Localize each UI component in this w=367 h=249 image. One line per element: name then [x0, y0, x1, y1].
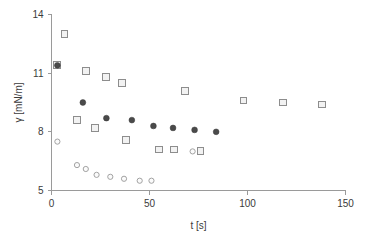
data-point-filled-circle: [103, 115, 109, 121]
data-point-filled-circle: [54, 62, 60, 68]
data-point-filled-circle: [213, 129, 219, 135]
data-point-open-circle: [94, 172, 99, 177]
data-point-filled-circle: [80, 100, 86, 106]
data-point-open-square: [82, 68, 89, 75]
data-point-open-square: [171, 146, 178, 153]
x-tick-label: 0: [49, 198, 55, 209]
data-point-open-circle: [83, 166, 88, 171]
data-point-open-square: [240, 97, 247, 104]
data-point-open-square: [156, 146, 163, 153]
y-axis-title: γ [mN/m]: [13, 82, 24, 122]
plot-area: 581114050100150t [s]γ [mN/m]: [0, 0, 367, 249]
data-point-open-circle: [149, 178, 154, 183]
x-tick-label: 150: [337, 198, 354, 209]
data-point-open-circle: [55, 139, 60, 144]
data-point-filled-circle: [151, 123, 157, 129]
data-point-filled-circle: [192, 127, 198, 133]
data-point-open-square: [91, 125, 98, 132]
scatter-chart: 581114050100150t [s]γ [mN/m]: [0, 0, 367, 249]
x-tick-label: 100: [239, 198, 256, 209]
data-point-open-square: [103, 74, 110, 81]
x-axis-title: t [s]: [190, 220, 206, 231]
data-point-open-circle: [74, 162, 79, 167]
data-point-filled-circle: [129, 117, 135, 123]
y-tick-label: 11: [33, 68, 44, 79]
data-point-open-circle: [108, 174, 113, 179]
data-point-open-circle: [137, 178, 142, 183]
data-point-open-square: [123, 136, 130, 143]
series-open-squares: [54, 31, 325, 155]
y-tick-label: 5: [38, 185, 44, 196]
data-point-open-circle: [190, 149, 195, 154]
data-point-open-circle: [121, 176, 126, 181]
data-point-open-square: [74, 117, 81, 124]
data-point-open-square: [197, 148, 204, 155]
x-tick-label: 50: [144, 198, 156, 209]
data-point-open-square: [181, 87, 188, 94]
data-point-open-square: [279, 99, 286, 106]
y-tick-label: 8: [38, 126, 44, 137]
data-point-open-square: [319, 101, 326, 108]
data-point-filled-circle: [170, 125, 176, 131]
data-point-open-square: [119, 80, 126, 87]
data-point-open-square: [61, 31, 68, 38]
y-tick-label: 14: [32, 9, 44, 20]
